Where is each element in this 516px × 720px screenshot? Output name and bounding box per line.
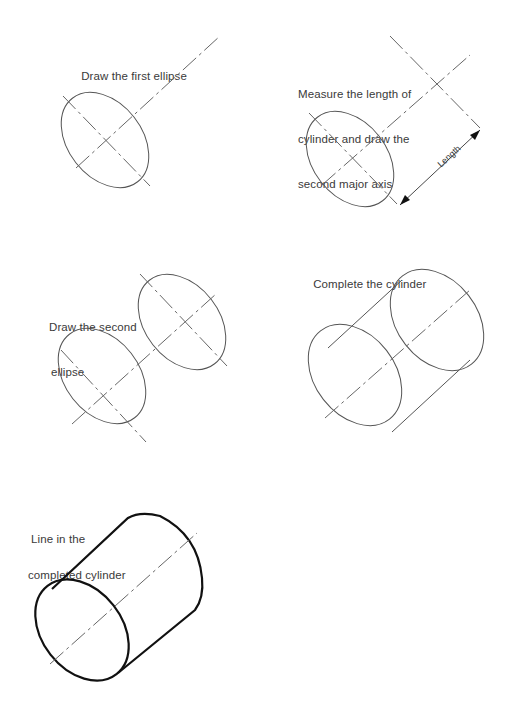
step4-cylinder-axis xyxy=(325,290,470,418)
step2-minor-axis xyxy=(309,113,397,204)
step2-cylinder-axis xyxy=(322,55,470,185)
step3-first-ellipse xyxy=(40,311,164,440)
cylinder-construction-diagram: Draw the first ellipse Measure the lengt… xyxy=(0,0,516,720)
step5-cylinder-axis xyxy=(50,533,197,664)
step1-figure xyxy=(43,36,220,205)
step2-figure: Length xyxy=(288,36,480,224)
step3-second-minor-axis xyxy=(140,274,227,366)
step5-figure xyxy=(16,514,202,699)
step5-outline xyxy=(52,514,202,673)
drawing-canvas: Length xyxy=(0,0,516,720)
step3-figure xyxy=(40,257,244,442)
step2-ellipse xyxy=(288,94,412,223)
length-dimension-label: Length xyxy=(436,143,463,169)
step2-second-major-axis xyxy=(390,36,480,128)
step1-minor-axis xyxy=(63,96,150,186)
step4-bottom-generator xyxy=(392,360,470,432)
step3-second-ellipse xyxy=(120,257,244,386)
step5-front-ellipse xyxy=(16,561,148,699)
step4-figure xyxy=(289,251,503,444)
step4-back-ellipse xyxy=(371,251,503,389)
